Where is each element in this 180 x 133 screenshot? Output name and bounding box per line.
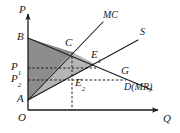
point-label-e2-sub: 2 (82, 85, 86, 93)
point-label-a: A (17, 93, 24, 104)
axis-label-p: P (19, 4, 26, 15)
axis-label-q: Q (163, 113, 171, 124)
diagram-canvas (0, 0, 180, 133)
point-label-e2-base: E (75, 76, 82, 88)
axis-label-origin: O (18, 112, 26, 123)
curve-label-dmr: D(MR) (124, 82, 152, 92)
point-label-b: B (17, 31, 24, 42)
point-label-g: G (121, 65, 129, 76)
point-label-e1-base: E (91, 48, 98, 60)
point-label-e1-sub: 1 (98, 57, 102, 65)
price-tick-p1-base: P (11, 60, 18, 72)
point-label-e1: E1 (91, 49, 101, 63)
point-label-c: C (65, 37, 72, 48)
curve-label-s: S (140, 27, 145, 37)
price-tick-p2-base: P (11, 72, 18, 84)
curve-label-mc: MC (103, 10, 118, 20)
economics-diagram: P Q O P1 P2 B A C E1 E2 G MC S D(MR) (0, 0, 180, 133)
price-tick-p2-sub: 2 (18, 81, 22, 89)
point-label-e2: E2 (75, 77, 85, 91)
price-tick-p2: P2 (11, 73, 21, 87)
